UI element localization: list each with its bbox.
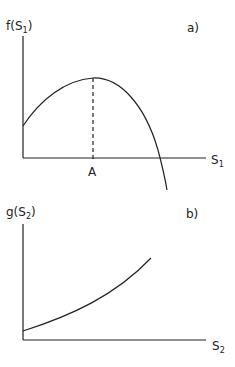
panel-b-tag: b): [186, 208, 198, 220]
panel-a-y-axis-label: f(S1): [6, 20, 32, 35]
panel-a-point-label: A: [88, 166, 96, 178]
panel-b-y-axis-label: g(S2): [6, 206, 36, 221]
diagram-canvas: [0, 0, 235, 367]
panel-b-curve: [23, 258, 151, 331]
panel-a-tag: a): [187, 22, 199, 34]
panel-a-x-axis-label: S1: [211, 154, 224, 169]
panel-b-x-axis-label: S2: [212, 340, 225, 355]
